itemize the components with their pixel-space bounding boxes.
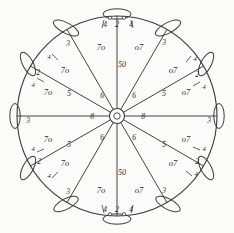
tick-ll-b	[52, 172, 58, 178]
callout-c32: 5	[162, 140, 166, 149]
callout-c3: 4	[129, 20, 133, 29]
junction-dot-top	[108, 16, 111, 19]
callout-c15: 4	[31, 81, 35, 89]
tick-ll-a	[37, 149, 44, 152]
callout-c36: o7	[169, 158, 178, 168]
callout-c5: o7	[135, 42, 144, 52]
callout-c43: 3	[161, 186, 166, 195]
callout-c14: 2	[195, 70, 199, 79]
callout-c17: 7o	[44, 87, 53, 97]
callout-c46: 4	[103, 205, 107, 214]
callout-c41: 50	[118, 168, 126, 177]
callout-c20: 5	[162, 89, 166, 98]
junction-dot-top2	[122, 16, 125, 19]
callout-c47: 2	[115, 205, 119, 214]
tick-ur-b	[193, 82, 200, 86]
spoke-240	[67, 29, 117, 116]
blade-lower-left	[52, 193, 81, 215]
tick-ul-a	[52, 54, 58, 60]
junction-dot-bottom	[108, 213, 111, 216]
callout-c28: 6	[132, 133, 136, 142]
patent-figure: 4 2 4 7o o7 50 3 3 4 4 7o o7 2 2 4 4 7o …	[0, 0, 234, 233]
blade-upper-right	[153, 17, 183, 39]
callout-c25: 8	[90, 112, 94, 121]
callout-c31: 5	[67, 140, 71, 149]
callout-c13: 2	[36, 68, 40, 77]
figure-canvas: 4 2 4 7o o7 50 3 3 4 4 7o o7 2 2 4 4 7o …	[0, 0, 234, 233]
callout-c48: 4	[129, 205, 133, 214]
callout-c33: 4	[31, 145, 35, 153]
callout-c45: o7	[135, 185, 144, 195]
callout-c37: 2	[37, 157, 41, 166]
callout-c40: 4	[194, 170, 198, 178]
callout-c23: 3	[25, 116, 30, 125]
spoke-030	[117, 116, 204, 166]
spoke-120	[67, 116, 117, 203]
callout-c19: 5	[67, 89, 71, 98]
callout-c10: 4	[193, 55, 197, 63]
callout-c16: 4	[202, 83, 206, 91]
callout-c27: 6	[100, 133, 104, 142]
callout-c44: 7o	[97, 185, 106, 195]
callout-c21: 6	[100, 91, 104, 100]
callout-c18: o7	[182, 87, 191, 97]
callout-c7: 3	[65, 39, 70, 48]
callout-c4: 7o	[97, 42, 106, 52]
callout-c12: o7	[169, 65, 178, 75]
callout-c6: 50	[118, 60, 126, 69]
callout-c35: 7o	[61, 158, 70, 168]
callout-c38: 2	[195, 157, 199, 166]
tick-lr-b	[186, 171, 192, 176]
callout-c11: 7o	[61, 65, 70, 75]
callout-c30: o7	[182, 134, 191, 144]
callout-c2: 2	[115, 20, 119, 29]
tick-ul-b	[37, 78, 44, 82]
callout-c8: 3	[161, 38, 166, 47]
tick-ur-a	[186, 56, 191, 62]
callout-c9: 4	[47, 53, 51, 61]
junction-dot-bottom2	[122, 213, 125, 216]
callout-c24: 3	[206, 116, 211, 125]
callout-c22: 6	[132, 91, 136, 100]
tick-lr-a	[193, 147, 200, 150]
blade-lower-right	[154, 193, 183, 215]
callout-c26: 8	[141, 112, 145, 121]
callout-c39: 4	[47, 172, 51, 180]
blade-upper-left	[51, 17, 81, 39]
callout-c29: 7o	[44, 134, 53, 144]
callout-c1: 4	[103, 20, 107, 29]
callout-c42: 3	[65, 187, 70, 196]
hub-outer-circle	[110, 109, 125, 124]
spoke-330	[117, 66, 204, 116]
blade-left-lower	[17, 154, 38, 182]
callout-c34: 4	[202, 145, 206, 153]
